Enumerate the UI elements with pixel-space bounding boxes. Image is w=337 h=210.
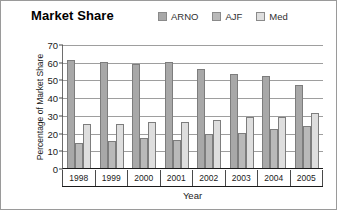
x-tick-label-1998: 1998	[62, 170, 95, 186]
bar-ajf-2003	[238, 133, 246, 168]
plot-area: Percentage of Market Share 0102030405060…	[62, 45, 323, 169]
bar-arno-2001	[165, 62, 173, 168]
legend-swatch-icon	[212, 12, 221, 21]
x-tick-label-2003: 2003	[225, 170, 258, 186]
bar-med-2001	[181, 122, 189, 168]
bar-ajf-2001	[173, 140, 181, 168]
chart-legend: ARNOAJFMed	[158, 11, 302, 22]
bar-group-2005	[291, 45, 324, 168]
bar-med-2000	[148, 122, 156, 168]
bar-ajf-2005	[303, 126, 311, 169]
bar-med-1998	[83, 124, 91, 168]
bar-arno-2002	[197, 69, 205, 168]
bar-group-2003	[226, 45, 259, 168]
bar-med-2003	[246, 117, 254, 168]
y-tick-label: 40	[47, 93, 58, 104]
bar-group-2002	[193, 45, 226, 168]
y-tick-label: 30	[47, 110, 58, 121]
bar-group-2001	[161, 45, 194, 168]
legend-item-arno[interactable]: ARNO	[158, 11, 198, 22]
bar-ajf-2004	[270, 129, 278, 168]
legend-swatch-icon	[256, 12, 265, 21]
bar-group-1999	[96, 45, 129, 168]
y-tick-label: 0	[53, 164, 58, 175]
market-share-bar-chart: Market Share ARNOAJFMed Percentage of Ma…	[0, 0, 337, 210]
y-tick-label: 20	[47, 128, 58, 139]
legend-label: Med	[269, 11, 287, 22]
x-tick-label-1999: 1999	[95, 170, 128, 186]
bars-layer	[63, 45, 323, 168]
bar-ajf-1998	[75, 143, 83, 168]
bar-group-1998	[63, 45, 96, 168]
x-tick-label-2000: 2000	[127, 170, 160, 186]
x-tick-label-2002: 2002	[192, 170, 225, 186]
bar-ajf-2000	[140, 138, 148, 168]
x-axis-tick-labels: 19981999200020012002200320042005	[62, 170, 323, 187]
legend-swatch-icon	[158, 12, 167, 21]
bar-group-2000	[128, 45, 161, 168]
bar-arno-2003	[230, 74, 238, 168]
y-tick-label: 50	[47, 75, 58, 86]
bar-arno-1998	[67, 60, 75, 168]
chart-title: Market Share	[31, 8, 114, 23]
bar-arno-1999	[100, 62, 108, 168]
legend-label: AJF	[225, 11, 242, 22]
y-tick-label: 10	[47, 146, 58, 157]
y-tick-label: 60	[47, 57, 58, 68]
x-axis-title: Year	[62, 190, 323, 201]
bar-med-2005	[311, 113, 319, 168]
x-tick-label-2001: 2001	[160, 170, 193, 186]
bar-med-2004	[278, 117, 286, 168]
bar-arno-2005	[295, 85, 303, 168]
bar-arno-2000	[132, 64, 140, 169]
y-tick-label: 70	[47, 40, 58, 51]
bar-arno-2004	[262, 76, 270, 168]
bar-med-2002	[213, 120, 221, 168]
bar-ajf-2002	[205, 134, 213, 168]
bar-ajf-1999	[108, 141, 116, 168]
legend-item-ajf[interactable]: AJF	[212, 11, 242, 22]
legend-label: ARNO	[171, 11, 198, 22]
bar-group-2004	[258, 45, 291, 168]
bar-med-1999	[116, 124, 124, 168]
x-tick-label-2005: 2005	[290, 170, 324, 186]
legend-item-med[interactable]: Med	[256, 11, 287, 22]
x-tick-label-2004: 2004	[257, 170, 290, 186]
